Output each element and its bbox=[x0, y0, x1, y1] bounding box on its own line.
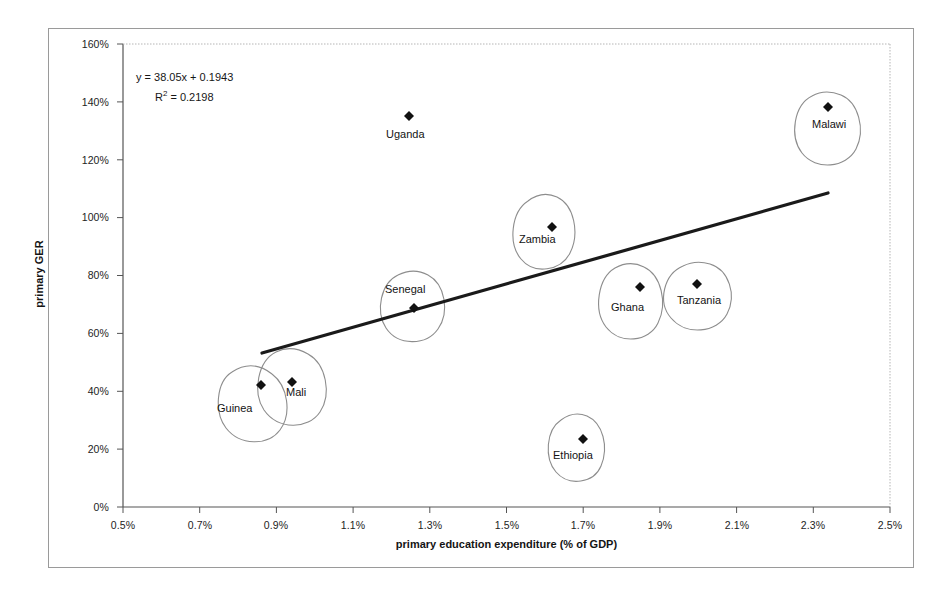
point-label-tanzania: Tanzania bbox=[677, 294, 721, 306]
x-tick-label-1-9: 1.9% bbox=[635, 519, 685, 531]
annotation-ovals bbox=[218, 92, 860, 481]
y-tick-label-120: 120% bbox=[63, 154, 109, 166]
y-tick-label-20: 20% bbox=[63, 443, 109, 455]
y-axis-title: primary GER bbox=[33, 214, 45, 334]
marker-ghana bbox=[635, 282, 645, 292]
x-tick-label-0-5: 0.5% bbox=[98, 519, 148, 531]
y-tick-label-140: 140% bbox=[63, 96, 109, 108]
y-tick-label-60: 60% bbox=[63, 327, 109, 339]
chart-figure: y = 38.05x + 0.1943 R2 = 0.2198 160% 140… bbox=[0, 0, 948, 602]
y-tick-label-100: 100% bbox=[63, 211, 109, 223]
r-squared-annotation: R2 = 0.2198 bbox=[155, 89, 214, 103]
x-tick-label-1-3: 1.3% bbox=[405, 519, 455, 531]
point-label-uganda: Uganda bbox=[386, 128, 425, 140]
x-tick-label-1-5: 1.5% bbox=[482, 519, 532, 531]
oval-ethiopia bbox=[548, 414, 604, 481]
x-tick-label-1-7: 1.7% bbox=[558, 519, 608, 531]
point-label-ethiopia: Ethiopia bbox=[553, 449, 593, 461]
marker-ethiopia bbox=[578, 434, 588, 444]
y-tick-label-80: 80% bbox=[63, 269, 109, 281]
marker-zambia bbox=[547, 222, 557, 232]
x-tick-label-1-1: 1.1% bbox=[328, 519, 378, 531]
y-tick-label-40: 40% bbox=[63, 385, 109, 397]
x-tick-label-2-3: 2.3% bbox=[788, 519, 838, 531]
point-label-mali: Mali bbox=[286, 386, 306, 398]
x-tick-label-0-9: 0.9% bbox=[251, 519, 301, 531]
marker-tanzania bbox=[692, 279, 702, 289]
trend-line bbox=[262, 193, 828, 353]
regression-equation: y = 38.05x + 0.1943 bbox=[136, 71, 233, 83]
marker-uganda bbox=[404, 111, 414, 121]
point-label-guinea: Guinea bbox=[217, 402, 252, 414]
x-axis-title: primary education expenditure (% of GDP) bbox=[123, 538, 890, 550]
r-squared-value: = 0.2198 bbox=[167, 91, 213, 103]
r-squared-symbol: R bbox=[155, 91, 163, 103]
marker-malawi bbox=[823, 102, 833, 112]
point-label-ghana: Ghana bbox=[611, 301, 644, 313]
point-label-senegal: Senegal bbox=[385, 283, 425, 295]
y-tick-label-160: 160% bbox=[63, 38, 109, 50]
y-tick-label-0: 0% bbox=[63, 501, 109, 513]
point-label-zambia: Zambia bbox=[519, 233, 556, 245]
x-tick-label-0-7: 0.7% bbox=[175, 519, 225, 531]
plot-area bbox=[0, 0, 948, 602]
y-tick-marks bbox=[117, 44, 123, 507]
oval-zambia bbox=[513, 194, 575, 269]
x-tick-label-2-1: 2.1% bbox=[712, 519, 762, 531]
point-label-malawi: Malawi bbox=[812, 118, 846, 130]
x-tick-label-2-5: 2.5% bbox=[865, 519, 915, 531]
x-tick-marks bbox=[123, 507, 890, 513]
